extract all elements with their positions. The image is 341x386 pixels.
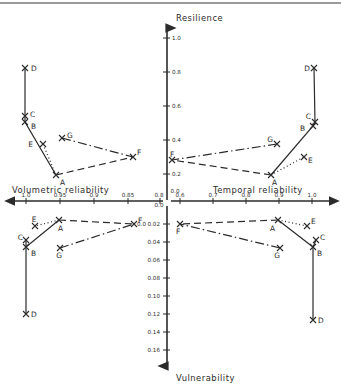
point-marker-e — [40, 141, 46, 147]
axis-title-vulnerability: Vulnerability — [176, 373, 235, 383]
axis-horizontal-volumetric-reliability — [14, 198, 163, 204]
point-label-e: E — [32, 215, 37, 224]
figure-container: Resilience Vulnerability Volumetric reli… — [0, 0, 341, 386]
point-label-a: A — [60, 178, 65, 187]
point-marker-f — [131, 221, 137, 227]
point-label-d: D — [304, 64, 310, 73]
point-label-e: E — [308, 156, 313, 165]
tick-vulnerability-0-14: 0.14 — [148, 329, 161, 335]
axis-vertical-resilience — [163, 28, 170, 200]
tick-volumetric-0-85: 0.85 — [122, 192, 135, 198]
point-label-c: C — [306, 112, 311, 121]
tick-vulnerability-0-06: 0.06 — [148, 257, 161, 263]
point-label-a: A — [270, 224, 275, 233]
tick-volumetric-0-8: 0.8 — [155, 192, 164, 198]
axis-vertical-vulnerability — [163, 206, 170, 366]
point-label-c: C — [320, 233, 325, 242]
point-label-f: F — [170, 150, 174, 159]
point-label-a: A — [272, 178, 277, 187]
tick-volumetric-0-95: 0.95 — [54, 192, 67, 198]
point-label-g: G — [56, 251, 62, 260]
point-label-f: F — [176, 227, 180, 236]
point-label-g: G — [267, 135, 273, 144]
axis-title-temporal-reliability: Temporal reliability — [212, 185, 303, 195]
point-label-f: F — [137, 148, 141, 157]
point-label-b: B — [317, 249, 322, 258]
tick-volumetric-0-9: 0.9 — [90, 192, 99, 198]
tick-origin-left-0-0: 0.0 — [155, 202, 164, 208]
point-marker-e — [304, 223, 310, 229]
four-quadrant-scatter-chart: Resilience Vulnerability Volumetric reli… — [0, 0, 341, 386]
tick-resilience-1-0: 1.0 — [172, 35, 181, 41]
point-marker-c — [313, 237, 319, 243]
point-label-d: D — [318, 316, 324, 325]
tick-temporal-0-8: 0.8 — [242, 192, 251, 198]
tick-resilience-0-8: 0.8 — [172, 69, 181, 75]
point-label-g: G — [67, 131, 73, 140]
tick-temporal-0-7: 0.7 — [209, 192, 218, 198]
tick-resilience-0-4: 0.4 — [172, 137, 181, 143]
point-label-f: F — [138, 216, 142, 225]
axis-horizontal-temporal-reliability — [171, 198, 330, 204]
tick-origin-right-0-0: 0.0 — [171, 188, 180, 194]
quadrant-volumetric-vulnerability — [23, 217, 137, 317]
tick-vulnerability-0-16: 0.16 — [148, 347, 161, 353]
point-label-c: C — [18, 233, 23, 242]
point-label-e: E — [28, 140, 33, 149]
point-label-a: A — [58, 224, 63, 233]
tick-vulnerability-0-02: 0.02 — [148, 221, 160, 227]
quadrant-temporal-resilience — [169, 65, 318, 178]
tick-temporal-0-9: 0.9 — [275, 192, 284, 198]
axis-title-resilience: Resilience — [176, 13, 223, 23]
point-label-g: G — [274, 251, 280, 260]
point-label-c: C — [30, 110, 35, 119]
tick-vulnerability-0-04: 0.04 — [148, 239, 161, 245]
tick-temporal-0-10: 1.0 — [308, 192, 317, 198]
tick-resilience-0-2: 0.2 — [172, 171, 181, 177]
quadrant-volumetric-resilience — [22, 65, 136, 178]
quadrant-temporal-vulnerability — [177, 217, 319, 323]
point-label-b: B — [31, 249, 36, 258]
point-marker-e — [301, 154, 307, 160]
point-label-d: D — [31, 310, 37, 319]
tick-vulnerability-0-10: 0.10 — [148, 293, 161, 299]
point-label-e: E — [311, 217, 316, 226]
tick-vulnerability-0-12: 0.12 — [148, 311, 160, 317]
tick-volumetric-1-0: 1.0 — [22, 192, 31, 198]
tick-resilience-0-6: 0.6 — [172, 103, 181, 109]
point-label-b: B — [31, 122, 36, 131]
point-label-b: B — [300, 124, 305, 133]
tick-vulnerability-0-08: 0.08 — [148, 275, 161, 281]
point-label-d: D — [31, 64, 37, 73]
